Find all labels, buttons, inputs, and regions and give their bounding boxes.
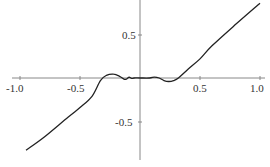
plot-area: -1.0 -0.5 0.5 1.0 0.5 -0.5 xyxy=(0,0,270,167)
x-axis: -1.0 -0.5 0.5 1.0 xyxy=(6,76,265,94)
y-tick-label: -0.5 xyxy=(115,116,133,128)
y-tick-label: 0.5 xyxy=(122,29,136,41)
x-tick-label: 1.0 xyxy=(250,82,264,94)
x-tick-label: -0.5 xyxy=(67,82,85,94)
data-line xyxy=(26,3,260,150)
x-tick-label: 0.5 xyxy=(193,82,207,94)
x-tick-label: -1.0 xyxy=(6,82,24,94)
y-axis: 0.5 -0.5 xyxy=(115,0,142,160)
